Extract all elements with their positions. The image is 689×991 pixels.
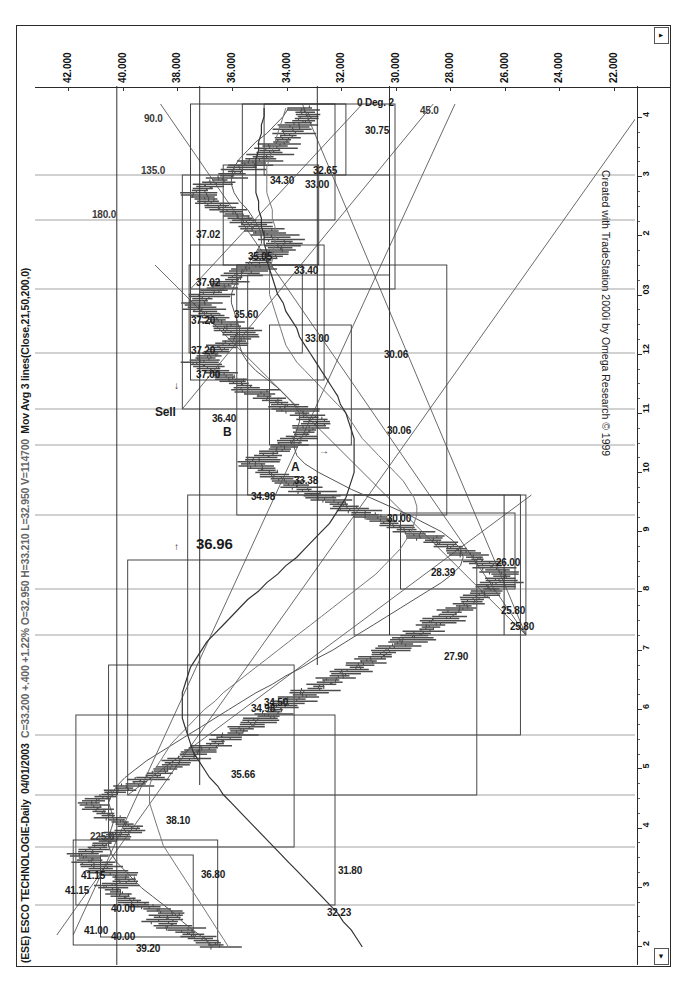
chart-annotation-price: 41.15 (65, 885, 89, 896)
chart-annotation-price: 34.98 (251, 491, 275, 502)
chart-annotation-price: 33.38 (294, 475, 318, 486)
date-tick-minor (638, 620, 640, 621)
date-tick-minor (638, 680, 640, 681)
chart-annotation-price: 40.00 (111, 903, 135, 914)
chart-annotation-price: 28.39 (431, 567, 455, 578)
date-tick-minor (638, 754, 640, 755)
chart-annotation-price: 33.40 (294, 265, 318, 276)
chart-annotation-arrow: ↑ (174, 541, 179, 552)
date-tick-minor (638, 694, 640, 695)
date-tick-minor (638, 147, 640, 148)
chart-annotation-price: 33.00 (305, 333, 329, 344)
header-date: 04/01/2003 (19, 743, 31, 794)
date-tick-minor (638, 191, 640, 192)
scroll-right-button[interactable]: ▼ (654, 27, 669, 44)
rotated-chart-wrapper: (ESE) ESCO TECHNOLOGIE-Daily 04/01/2003 … (0, 0, 689, 991)
price-axis[interactable]: 42.00040.00038.00036.00034.00032.00030.0… (35, 27, 671, 88)
date-tick-minor (638, 458, 640, 459)
date-tick-minor (638, 384, 640, 385)
date-tick-minor (638, 280, 640, 281)
date-tick-minor (638, 872, 640, 873)
chart-annotation-price: 37.02 (196, 229, 220, 240)
chart-annotation-price: 25.80 (510, 621, 534, 632)
chart-annotation-price: 39.20 (136, 943, 160, 954)
chart-annotation-price: 36.80 (201, 869, 225, 880)
chart-annotation-gann: 135.0 (141, 165, 165, 176)
header-quote: C=33.200 +.400 +1.22% O=32.950 H=33.210 … (19, 439, 31, 738)
date-tick-minor (638, 606, 640, 607)
date-tick-minor (638, 635, 640, 636)
chart-annotation-price: 37.20 (191, 345, 215, 356)
chart-annotation-gann: 225.0 (90, 831, 114, 842)
date-tick-minor (638, 309, 640, 310)
date-tick-minor (638, 398, 640, 399)
date-tick-minor (638, 221, 640, 222)
screenshot-root: (ESE) ESCO TECHNOLOGIE-Daily 04/01/2003 … (0, 0, 689, 991)
chart-annotation-signal: Sell (155, 405, 176, 419)
chart-annotation-price: 34.30 (270, 175, 294, 186)
chart-annotation-price: 37.02 (196, 277, 220, 288)
chart-annotation-price: 40.00 (111, 931, 135, 942)
chart-annotation-price: 37.00 (196, 369, 220, 380)
date-tick-minor (638, 546, 640, 547)
date-tick-minor (638, 783, 640, 784)
date-tick-minor (638, 428, 640, 429)
date-tick-minor (638, 265, 640, 266)
scroll-left-button[interactable]: ◄ (654, 948, 669, 965)
date-tick-minor (638, 902, 640, 903)
date-axis[interactable]: 2345678910111203234 (637, 86, 654, 965)
chart-annotation-price: 30.00 (387, 513, 411, 524)
chart-annotation-price-bold: 36.96 (196, 535, 233, 552)
chart-annotation-gann: 90.0 (144, 113, 163, 124)
date-tick-minor (638, 739, 640, 740)
chart-annotation-price: 30.75 (365, 125, 389, 136)
date-tick-minor (638, 916, 640, 917)
plot-area[interactable]: 41.1541.0041.1540.0040.0039.2038.1036.80… (35, 86, 635, 965)
chart-annotation-price: 34.98 (251, 703, 275, 714)
date-tick-minor (638, 724, 640, 725)
date-tick-minor (638, 665, 640, 666)
chart-annotation-price: 31.80 (338, 865, 362, 876)
chart-annotation-gann: 45.0 (420, 105, 439, 116)
chart-annotation-price: 37.20 (191, 315, 215, 326)
date-tick-minor (638, 561, 640, 562)
chart-annotation-arrow: ↓ (174, 380, 179, 391)
chart-annotation-price: 35.05 (248, 251, 272, 262)
chart-annotation-price: 30.06 (384, 349, 408, 360)
chart-header: (ESE) ESCO TECHNOLOGIE-Daily 04/01/2003 … (19, 268, 31, 963)
chart-annotation-price: 41.15 (81, 870, 105, 881)
date-tick-minor (638, 857, 640, 858)
chart-annotation-price: 38.10 (166, 815, 190, 826)
date-tick-minor (638, 324, 640, 325)
header-symbol: (ESE) ESCO TECHNOLOGIE-Daily (19, 799, 31, 963)
date-tick-minor (638, 502, 640, 503)
date-tick-minor (638, 813, 640, 814)
date-tick-minor (638, 517, 640, 518)
date-tick-minor (638, 339, 640, 340)
chart-annotation-label: A (291, 460, 299, 474)
date-tick-minor (638, 443, 640, 444)
chart-annotation-price: 41.00 (84, 925, 108, 936)
date-tick-minor (638, 487, 640, 488)
chart-annotation-price: 26.00 (496, 557, 520, 568)
chart-annotation-price: 35.60 (234, 309, 258, 320)
chart-annotation-price: 33.00 (305, 179, 329, 190)
tradestation-credit: Created with TradeStation 2000i by Omega… (600, 170, 612, 456)
chart-annotation-price: 32.23 (327, 907, 351, 918)
chart-annotation-price: 36.40 (212, 413, 236, 424)
date-tick-minor (638, 132, 640, 133)
horizontal-price-lines-layer (117, 86, 504, 965)
gann-boxes-layer (73, 104, 526, 945)
price-chart-svg[interactable] (35, 86, 635, 965)
date-tick-minor (638, 931, 640, 932)
chart-annotation-arrow: → (319, 445, 329, 456)
chart-annotation-price: 32.65 (313, 165, 337, 176)
chart-annotation-gann: 180.0 (92, 209, 116, 220)
date-tick-minor (638, 842, 640, 843)
chart-annotation-price: 27.90 (444, 651, 468, 662)
date-tick-minor (638, 798, 640, 799)
chart-annotation-price: 35.66 (231, 769, 255, 780)
date-tick-minor (638, 576, 640, 577)
date-tick-minor (638, 250, 640, 251)
date-tick-minor (638, 161, 640, 162)
